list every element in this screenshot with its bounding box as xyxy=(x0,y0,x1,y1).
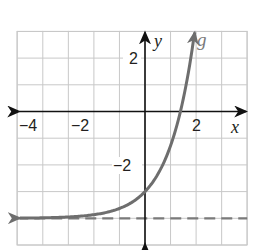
y-axis-label: y xyxy=(152,31,162,51)
x-tick-label-neg2: −2 xyxy=(71,117,89,134)
y-tick-label-neg2: −2 xyxy=(113,157,131,174)
x-axis-label: x xyxy=(230,117,239,137)
coordinate-plane: −4 −2 2 2 −2 x y g xyxy=(0,0,255,250)
x-tick-label-neg4: −4 xyxy=(19,117,37,134)
curve-label-g: g xyxy=(197,29,207,50)
x-tick-label-2: 2 xyxy=(192,117,201,134)
y-tick-label-2: 2 xyxy=(129,50,138,67)
curve-g xyxy=(20,32,195,218)
